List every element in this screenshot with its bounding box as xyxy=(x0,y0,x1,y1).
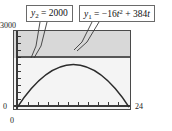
x-axis-max-label: 24 xyxy=(135,103,143,111)
callout-y2-equation: y2 = 2000 xyxy=(26,5,73,22)
y-axis-min-label: 0 xyxy=(3,103,7,111)
y1-variable-t-linear: t xyxy=(147,9,150,19)
y1-equals: = xyxy=(92,9,102,19)
callout-y1-equation: y1 = −16t2 + 384t xyxy=(79,5,155,22)
y1-plus: + xyxy=(123,9,133,19)
y1-coefficient-b: 384 xyxy=(133,9,147,19)
y2-equation-text: y2 = 2000 xyxy=(31,8,68,18)
y2-equals: = xyxy=(39,8,49,18)
x-axis-min-label: 0 xyxy=(10,117,14,125)
y1-equation-text: y1 = −16t2 + 384t xyxy=(84,9,150,19)
plot-frame xyxy=(13,30,131,110)
y-axis-max-label: 3000 xyxy=(0,22,16,30)
y2-value: 2000 xyxy=(49,8,68,18)
curve-y1-parabola xyxy=(17,65,129,108)
curve-layer xyxy=(14,31,130,109)
graph-figure: 3000 0 0 24 y2 = 2000 y1 = −16t2 + 384t xyxy=(0,0,172,131)
y1-coefficient-a: −16 xyxy=(102,9,117,19)
